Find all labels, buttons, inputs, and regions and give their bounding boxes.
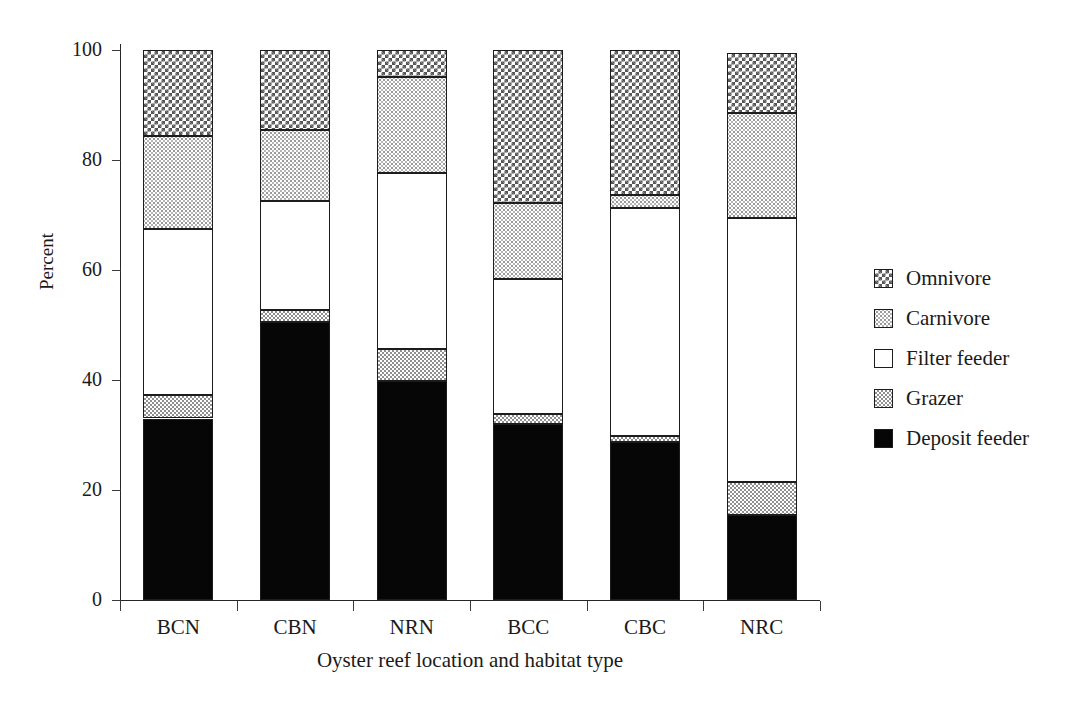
- bar-segment-carnivore: [260, 130, 330, 202]
- stacked-bar-chart-figure: 020406080100 BCNCBNNRNBCCCBCNRC Percent …: [0, 0, 1078, 710]
- bar-segment-filter-feeder: [610, 208, 680, 436]
- bar-segment-omnivore: [260, 50, 330, 130]
- x-axis-tick: [353, 601, 354, 611]
- legend-swatch-grazer: [874, 389, 893, 408]
- x-axis-tick-label-cbc: CBC: [585, 614, 705, 640]
- y-axis-tick-label: 40: [42, 369, 102, 389]
- legend-swatch-omnivore: [874, 269, 893, 288]
- x-axis-tick: [120, 601, 121, 611]
- bar-bcc: [493, 50, 563, 600]
- bar-segment-grazer: [493, 414, 563, 424]
- bar-segment-grazer: [143, 395, 213, 418]
- x-axis-tick: [703, 601, 704, 611]
- x-axis-tick: [587, 601, 588, 611]
- legend-swatch-carnivore: [874, 309, 893, 328]
- bar-bcn: [143, 50, 213, 600]
- bar-nrn: [377, 50, 447, 600]
- bar-segment-carnivore: [727, 113, 797, 218]
- bar-segment-deposit-feeder: [727, 515, 797, 600]
- x-axis-tick-label-cbn: CBN: [235, 614, 355, 640]
- plot-area: [120, 50, 820, 600]
- legend-label: Filter feeder: [906, 348, 1009, 369]
- bar-segment-deposit-feeder: [143, 419, 213, 601]
- bar-segment-filter-feeder: [260, 201, 330, 310]
- y-axis-tick-label: 20: [42, 479, 102, 499]
- legend-swatch-filter-feeder: [874, 349, 893, 368]
- bar-segment-omnivore: [143, 50, 213, 136]
- bar-cbc: [610, 50, 680, 600]
- bar-segment-deposit-feeder: [493, 424, 563, 600]
- x-axis-tick-label-nrn: NRN: [352, 614, 472, 640]
- bar-nrc: [727, 50, 797, 600]
- bar-segment-deposit-feeder: [260, 322, 330, 600]
- bar-segment-grazer: [727, 482, 797, 515]
- bar-segment-grazer: [377, 349, 447, 381]
- legend-label: Omnivore: [906, 268, 991, 289]
- bar-segment-carnivore: [493, 203, 563, 279]
- bar-segment-filter-feeder: [377, 173, 447, 349]
- bar-segment-omnivore: [377, 50, 447, 77]
- y-axis-tick-label: 0: [42, 589, 102, 609]
- y-axis-title: Percent: [36, 233, 58, 290]
- legend-swatch-deposit-feeder: [874, 429, 893, 448]
- x-axis-tick-label-bcn: BCN: [118, 614, 238, 640]
- legend-label: Deposit feeder: [906, 428, 1029, 449]
- bar-segment-deposit-feeder: [610, 442, 680, 600]
- x-axis-title: Oyster reef location and habitat type: [120, 648, 820, 673]
- x-axis-tick: [820, 601, 821, 611]
- bar-segment-omnivore: [493, 50, 563, 203]
- bar-segment-filter-feeder: [493, 279, 563, 414]
- legend-item-carnivore: Carnivore: [874, 298, 1029, 338]
- x-axis-tick: [470, 601, 471, 611]
- x-axis-tick: [237, 601, 238, 611]
- legend-label: Carnivore: [906, 308, 990, 329]
- bar-segment-carnivore: [143, 136, 213, 230]
- bar-segment-carnivore: [610, 195, 680, 208]
- bar-segment-grazer: [610, 436, 680, 442]
- legend-item-omnivore: Omnivore: [874, 258, 1029, 298]
- bar-segment-carnivore: [377, 77, 447, 173]
- legend-item-grazer: Grazer: [874, 378, 1029, 418]
- bar-segment-grazer: [260, 310, 330, 322]
- legend-label: Grazer: [906, 388, 963, 409]
- y-axis-tick-label: 80: [42, 149, 102, 169]
- bar-segment-omnivore: [727, 53, 797, 114]
- legend-item-deposit-feeder: Deposit feeder: [874, 418, 1029, 458]
- bar-segment-filter-feeder: [143, 229, 213, 395]
- bar-segment-omnivore: [610, 50, 680, 195]
- x-axis-tick-label-nrc: NRC: [702, 614, 822, 640]
- chart-legend: OmnivoreCarnivoreFilter feederGrazerDepo…: [874, 258, 1029, 458]
- bar-segment-filter-feeder: [727, 218, 797, 482]
- bar-segment-deposit-feeder: [377, 381, 447, 600]
- legend-item-filter-feeder: Filter feeder: [874, 338, 1029, 378]
- x-axis-tick-label-bcc: BCC: [468, 614, 588, 640]
- bar-cbn: [260, 50, 330, 600]
- y-axis-tick-label: 100: [42, 39, 102, 59]
